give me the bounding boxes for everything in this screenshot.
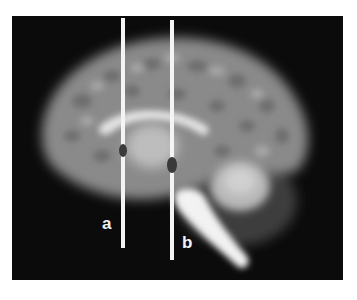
- line-label-a: a: [102, 215, 111, 232]
- reference-line-b: [170, 20, 174, 260]
- reference-line-a: [121, 18, 125, 248]
- marker-dot-a: [119, 144, 127, 157]
- brain-scan-image: a b: [12, 16, 343, 280]
- brain-sagittal-scan: [12, 16, 343, 280]
- line-label-b: b: [182, 234, 192, 251]
- marker-dot-b: [167, 157, 177, 173]
